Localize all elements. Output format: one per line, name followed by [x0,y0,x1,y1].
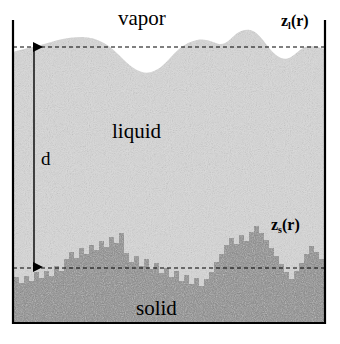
label-solid-surface-function: zs(r) [271,216,300,235]
schematic-diagram [0,0,340,344]
label-liquid: liquid [112,119,161,144]
zl-argument: (r) [291,12,309,29]
label-thickness-d: d [41,148,51,170]
label-liquid-surface-function: zl(r) [281,12,309,31]
label-solid: solid [136,296,177,321]
label-vapor: vapor [118,6,166,31]
figure-canvas: vapor liquid solid d zl(r) zs(r) [0,0,340,344]
zs-argument: (r) [282,216,300,233]
